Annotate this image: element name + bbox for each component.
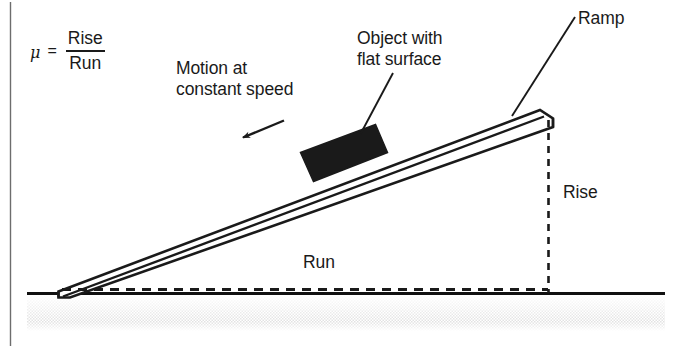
friction-coefficient-formula: μ = Rise Run: [30, 28, 105, 74]
fraction-numerator: Rise: [66, 28, 105, 50]
equals-symbol: =: [47, 42, 65, 60]
ramp-friction-figure: μ = Rise Run Motion at constant speed Ob…: [0, 0, 695, 348]
ground-surface: [27, 294, 665, 332]
rise-label: Rise: [563, 182, 598, 203]
mu-symbol: μ: [30, 43, 47, 62]
object-label: Object with flat surface: [357, 28, 442, 69]
rise-over-run-fraction: Rise Run: [66, 28, 105, 74]
motion-arrow: [243, 121, 284, 138]
ramp-leader-line: [512, 17, 575, 116]
ramp-label: Ramp: [578, 8, 624, 29]
fraction-denominator: Run: [67, 52, 103, 74]
run-label: Run: [303, 252, 335, 273]
object-leader-line: [361, 73, 394, 134]
motion-label: Motion at constant speed: [176, 58, 293, 99]
ground-stipple-fade: [27, 295, 665, 331]
